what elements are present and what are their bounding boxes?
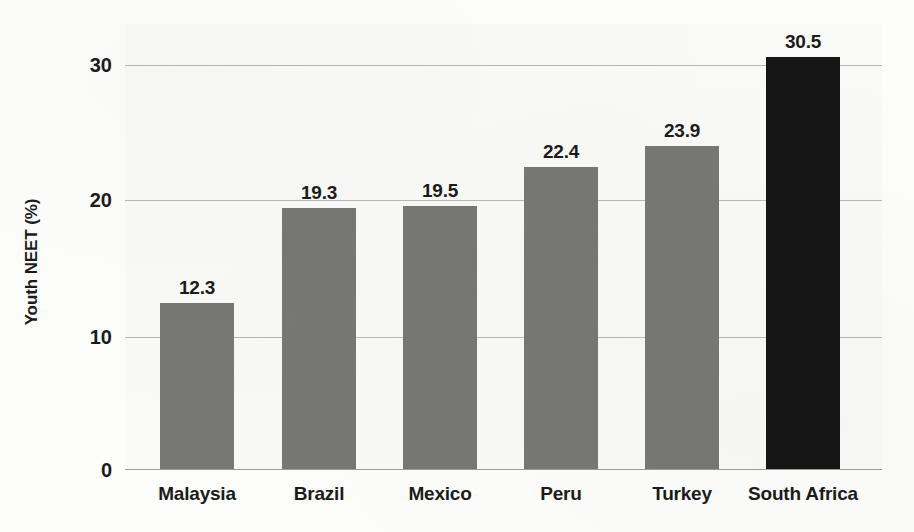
bar-brazil[interactable] xyxy=(282,208,356,469)
x-tick-label-south-africa: South Africa xyxy=(728,483,878,505)
bar-value-mexico: 19.5 xyxy=(380,180,500,202)
y-axis-tick-labels: 30 20 10 0 xyxy=(40,0,112,532)
bar-value-south-africa: 30.5 xyxy=(743,31,863,53)
bar-malaysia[interactable] xyxy=(160,303,234,469)
bar-chart: Youth NEET (%) 30 20 10 0 12.3 19.3 19.5… xyxy=(0,0,914,532)
bar-value-peru: 22.4 xyxy=(501,141,621,163)
bar-value-brazil: 19.3 xyxy=(259,182,379,204)
bar-turkey[interactable] xyxy=(645,146,719,469)
y-axis-title: Youth NEET (%) xyxy=(22,152,42,372)
bar-south-africa[interactable] xyxy=(766,57,840,469)
y-tick-label-0: 0 xyxy=(52,459,112,482)
y-tick-label-30: 30 xyxy=(52,54,112,77)
plot-area xyxy=(125,24,882,470)
y-tick-label-10: 10 xyxy=(52,326,112,349)
bar-value-malaysia: 12.3 xyxy=(137,277,257,299)
bar-peru[interactable] xyxy=(524,167,598,469)
bar-value-turkey: 23.9 xyxy=(622,120,742,142)
x-axis-baseline xyxy=(125,469,882,470)
bar-mexico[interactable] xyxy=(403,206,477,469)
y-tick-label-20: 20 xyxy=(52,189,112,212)
